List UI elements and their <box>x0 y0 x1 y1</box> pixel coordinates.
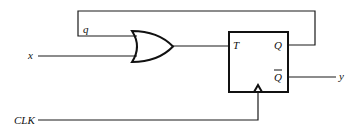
label-Q: Q <box>274 39 282 51</box>
circuit-diagram: q x T Q Q y CLK <box>0 0 360 133</box>
label-x: x <box>27 49 33 61</box>
label-clk: CLK <box>14 114 35 126</box>
label-y: y <box>338 70 344 82</box>
or-gate <box>132 31 173 62</box>
label-t: T <box>233 39 240 51</box>
label-Qbar: Q <box>274 71 282 83</box>
clk-wire <box>38 92 258 120</box>
label-q: q <box>83 23 89 35</box>
clock-triangle-icon <box>254 85 262 92</box>
